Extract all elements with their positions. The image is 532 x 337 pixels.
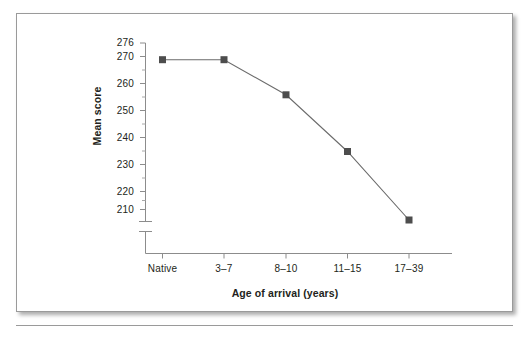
figure-frame: [16, 13, 513, 312]
bottom-divider-rule: [16, 325, 513, 326]
